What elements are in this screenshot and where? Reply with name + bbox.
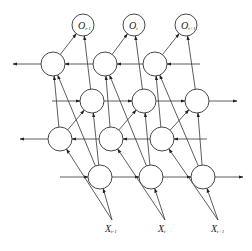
backward-layer-2-node	[143, 52, 167, 76]
forward-layer-2-node	[185, 89, 209, 113]
input-label: Xt-1	[104, 223, 117, 235]
bidirectional-rnn-diagram: Ot-1OtOt+1Xt-1XtXt+1	[0, 0, 252, 251]
output-edge	[60, 34, 76, 55]
layer-edge	[156, 76, 161, 127]
backward-layer-2-node	[41, 52, 65, 76]
layer-edge	[106, 76, 110, 127]
output-edge	[188, 36, 196, 89]
layer-edge	[170, 110, 189, 130]
layer-edge	[54, 76, 59, 127]
backward-layer-1-node	[99, 127, 123, 151]
backward-layer-1-node	[48, 127, 72, 151]
output-edge	[112, 34, 127, 55]
layer-edge	[110, 75, 147, 166]
input-edge	[155, 188, 165, 220]
nodes	[41, 14, 215, 189]
layer-edge	[58, 75, 96, 166]
layer-edge	[119, 110, 136, 130]
input-label: Xt	[157, 223, 166, 235]
output-edge	[84, 36, 90, 89]
output-edge	[162, 34, 179, 55]
backward-layer-2-node	[93, 52, 117, 76]
input-edge	[207, 188, 218, 220]
input-edge	[103, 189, 112, 220]
backward-layer-1-node	[150, 127, 174, 151]
forward-layer-1-node	[139, 165, 163, 189]
forward-layer-2-node	[132, 89, 156, 113]
output-edge	[135, 36, 142, 89]
input-label: Xt+1	[210, 223, 224, 235]
forward-layer-2-node	[80, 89, 104, 113]
forward-layer-1-node	[191, 165, 215, 189]
forward-layer-1-node	[88, 165, 112, 189]
layer-edge	[68, 110, 85, 130]
